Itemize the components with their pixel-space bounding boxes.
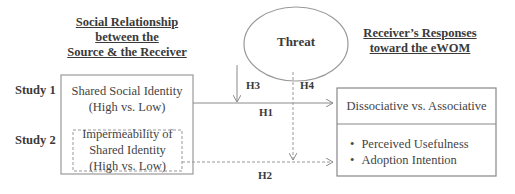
left-heading-line1: Social Relationship bbox=[62, 15, 192, 30]
left-heading-line2: between the bbox=[62, 30, 192, 45]
left-heading: Social Relationship between the Source &… bbox=[62, 15, 192, 60]
outcome-bullet: Adoption Intention bbox=[350, 152, 469, 168]
study2-box-text: Impermeability of Shared Identity (High … bbox=[73, 126, 182, 174]
left-heading-line3: Source & the Receiver bbox=[62, 45, 192, 60]
outcome-bullets: Perceived Usefulness Adoption Intention bbox=[350, 136, 469, 168]
right-heading-line2: toward the eWOM bbox=[360, 41, 480, 56]
study1-box-line1: Shared Social Identity bbox=[61, 83, 193, 99]
threat-label: Threat bbox=[250, 34, 342, 50]
h1-label: H1 bbox=[259, 106, 273, 118]
study2-label: Study 2 bbox=[15, 133, 56, 148]
study2-box-line2: Shared Identity bbox=[73, 142, 182, 158]
right-heading: Receiver’s Responses toward the eWOM bbox=[360, 26, 480, 56]
h3-label: H3 bbox=[246, 79, 260, 91]
h4-label: H4 bbox=[300, 79, 314, 91]
study1-label: Study 1 bbox=[15, 83, 56, 98]
right-heading-line1: Receiver’s Responses bbox=[360, 26, 480, 41]
study2-box-line3: (High vs. Low) bbox=[73, 158, 182, 174]
outcome-bullet: Perceived Usefulness bbox=[350, 136, 469, 152]
h2-label: H2 bbox=[258, 169, 272, 181]
study1-box-line2: (High vs. Low) bbox=[61, 99, 193, 115]
study2-box-line1: Impermeability of bbox=[73, 126, 182, 142]
outcome-top: Dissociative vs. Associative bbox=[337, 98, 496, 114]
study1-box-text: Shared Social Identity (High vs. Low) bbox=[61, 83, 193, 115]
